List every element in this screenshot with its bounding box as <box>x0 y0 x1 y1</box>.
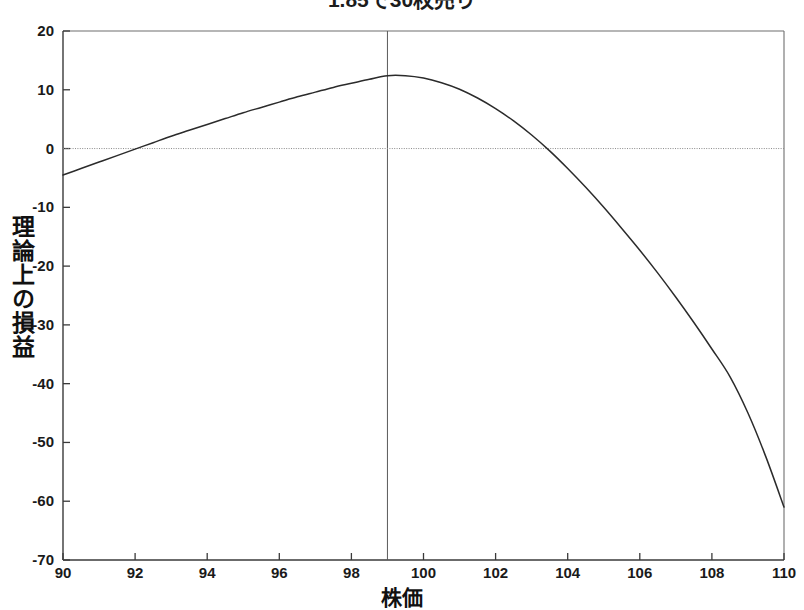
y-tick-label: -70 <box>32 551 54 568</box>
x-axis-ticks: 9092949698100102104106108110 <box>55 553 796 581</box>
plot-frame <box>63 31 784 560</box>
y-axis-ticks: 20100-10-20-30-40-50-60-70 <box>32 22 70 568</box>
x-tick-label: 92 <box>127 564 144 581</box>
plot-area: 20100-10-20-30-40-50-60-70 9092949698100… <box>0 0 804 610</box>
y-tick-label: -20 <box>32 257 54 274</box>
x-tick-label: 102 <box>483 564 508 581</box>
x-tick-label: 106 <box>627 564 652 581</box>
x-tick-label: 100 <box>411 564 436 581</box>
x-tick-label: 98 <box>343 564 360 581</box>
chart-figure: 1.85で30枚売り 理論上の損益 株価 20100-10-20-30-40-5… <box>0 0 804 610</box>
x-tick-label: 94 <box>199 564 216 581</box>
y-tick-label: -10 <box>32 198 54 215</box>
y-tick-label: -50 <box>32 433 54 450</box>
data-curve-line <box>63 75 784 507</box>
y-tick-label: -60 <box>32 492 54 509</box>
reference-lines <box>63 31 784 560</box>
x-tick-label: 96 <box>271 564 288 581</box>
y-tick-label: -30 <box>32 316 54 333</box>
y-tick-label: -40 <box>32 375 54 392</box>
x-tick-label: 90 <box>55 564 72 581</box>
y-tick-label: 0 <box>46 140 54 157</box>
y-tick-label: 20 <box>37 22 54 39</box>
y-tick-label: 10 <box>37 81 54 98</box>
data-series-group <box>63 75 784 507</box>
x-tick-label: 108 <box>699 564 724 581</box>
x-tick-label: 110 <box>772 564 796 581</box>
x-tick-label: 104 <box>555 564 581 581</box>
